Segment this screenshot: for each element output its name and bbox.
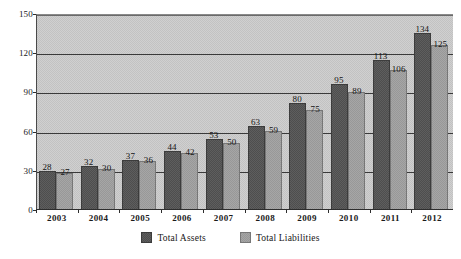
bar-value-label: 27 bbox=[52, 167, 78, 177]
bar-value-label: 75 bbox=[302, 104, 328, 114]
y-axis-tick-label: 0 bbox=[3, 206, 33, 215]
bar-group: 134125 bbox=[412, 14, 454, 210]
bar-group: 4442 bbox=[162, 14, 204, 210]
bar-total-assets: 134 bbox=[414, 33, 431, 210]
x-axis-tick-mark bbox=[286, 210, 287, 213]
x-axis-tick-mark bbox=[78, 210, 79, 213]
legend-label: Total Liabilities bbox=[256, 233, 320, 243]
bar-total-assets: 28 bbox=[39, 171, 56, 210]
x-axis-tick-label: 2009 bbox=[284, 213, 330, 223]
x-axis-tick-label: 2007 bbox=[201, 213, 247, 223]
bar-value-label: 106 bbox=[386, 64, 412, 74]
bar-value-label: 50 bbox=[219, 137, 245, 147]
bar-value-label: 42 bbox=[177, 147, 203, 157]
bar-total-liabilities: 89 bbox=[348, 92, 365, 210]
legend-swatch-icon bbox=[141, 232, 152, 243]
bar-total-liabilities: 42 bbox=[181, 153, 198, 210]
y-axis-tick-label: 150 bbox=[3, 10, 33, 19]
bar-value-label: 113 bbox=[368, 51, 394, 61]
legend-swatch-icon bbox=[240, 232, 251, 243]
bar-total-assets: 113 bbox=[373, 60, 390, 210]
bar-total-liabilities: 30 bbox=[98, 169, 115, 210]
x-axis-tick-label: 2012 bbox=[409, 213, 455, 223]
bar-total-liabilities: 75 bbox=[306, 110, 323, 210]
bar-total-assets: 44 bbox=[164, 151, 181, 210]
bar-total-liabilities: 59 bbox=[265, 131, 282, 210]
y-axis: 0306090120150 bbox=[0, 0, 33, 259]
bar-chart: 0306090120150 28273230373644425350635980… bbox=[0, 0, 461, 259]
bar-total-assets: 80 bbox=[289, 103, 306, 210]
bar-group: 2827 bbox=[37, 14, 79, 210]
x-axis-tick-label: 2010 bbox=[326, 213, 372, 223]
x-axis-tick-mark bbox=[245, 210, 246, 213]
bar-total-liabilities: 125 bbox=[431, 45, 448, 210]
bar-value-label: 95 bbox=[326, 75, 352, 85]
legend-label: Total Assets bbox=[157, 233, 205, 243]
x-axis-tick-label: 2008 bbox=[242, 213, 288, 223]
bar-group: 3230 bbox=[79, 14, 121, 210]
x-axis-tick-label: 2003 bbox=[34, 213, 80, 223]
bar-total-liabilities: 36 bbox=[139, 161, 156, 210]
x-axis-tick-mark bbox=[161, 210, 162, 213]
bar-value-label: 134 bbox=[409, 24, 435, 34]
bar-total-liabilities: 106 bbox=[390, 70, 407, 211]
x-axis-tick-label: 2006 bbox=[159, 213, 205, 223]
bar-value-label: 59 bbox=[261, 125, 287, 135]
bar-group: 6359 bbox=[246, 14, 288, 210]
x-axis-tick-mark bbox=[370, 210, 371, 213]
bar-value-label: 125 bbox=[427, 39, 453, 49]
x-axis-tick-label: 2004 bbox=[76, 213, 122, 223]
bar-total-assets: 53 bbox=[206, 139, 223, 210]
x-axis-tick-mark bbox=[203, 210, 204, 213]
x-axis-tick-mark bbox=[36, 210, 37, 213]
plot-area: 2827323037364442535063598075958911310613… bbox=[36, 14, 453, 210]
bar-group: 113106 bbox=[371, 14, 413, 210]
x-axis-tick-mark bbox=[328, 210, 329, 213]
y-axis-tick-label: 90 bbox=[3, 88, 33, 97]
bar-group: 5350 bbox=[204, 14, 246, 210]
bar-group: 3736 bbox=[120, 14, 162, 210]
bar-value-label: 89 bbox=[344, 86, 370, 96]
x-axis-tick-label: 2005 bbox=[117, 213, 163, 223]
bar-value-label: 30 bbox=[94, 163, 120, 173]
bar-total-liabilities: 27 bbox=[56, 173, 73, 210]
y-axis-tick-label: 120 bbox=[3, 49, 33, 58]
chart-legend: Total AssetsTotal Liabilities bbox=[0, 232, 461, 243]
bar-total-liabilities: 50 bbox=[223, 143, 240, 210]
x-axis-tick-mark bbox=[119, 210, 120, 213]
bar-group: 8075 bbox=[287, 14, 329, 210]
bar-value-label: 36 bbox=[135, 155, 161, 165]
bar-total-assets: 95 bbox=[331, 84, 348, 210]
bar-total-assets: 37 bbox=[122, 160, 139, 210]
legend-item[interactable]: Total Assets bbox=[141, 232, 205, 243]
x-axis-tick-label: 2011 bbox=[367, 213, 413, 223]
x-axis-tick-mark bbox=[411, 210, 412, 213]
bar-total-assets: 63 bbox=[248, 126, 265, 210]
bar-group: 9589 bbox=[329, 14, 371, 210]
legend-item[interactable]: Total Liabilities bbox=[240, 232, 320, 243]
bar-value-label: 80 bbox=[284, 94, 310, 104]
y-axis-tick-label: 60 bbox=[3, 128, 33, 137]
y-axis-tick-label: 30 bbox=[3, 167, 33, 176]
